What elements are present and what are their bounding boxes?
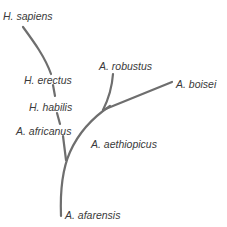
branch-africanus-junction [63, 136, 66, 160]
branch-afarensis-aethiopicus [61, 106, 110, 216]
label-a-africanus: A. africanus [16, 125, 71, 137]
label-a-robustus: A. robustus [99, 60, 152, 72]
label-h-erectus: H. erectus [24, 74, 72, 86]
label-a-boisei: A. boisei [176, 78, 216, 90]
tree-branches [0, 0, 227, 227]
label-h-sapiens: H. sapiens [3, 10, 53, 22]
branch-erectus-habilis [53, 85, 55, 96]
label-a-aethiopicus: A. aethiopicus [91, 138, 157, 150]
label-a-afarensis: A. afarensis [65, 209, 120, 221]
branch-boisei [103, 82, 172, 110]
label-h-habilis: H. habilis [29, 101, 72, 113]
branch-robustus [103, 74, 113, 110]
phylogeny-diagram: H. sapiens H. erectus H. habilis A. afri… [0, 0, 227, 227]
branch-sapiens-erectus [23, 27, 51, 74]
branch-habilis-africanus [57, 113, 60, 124]
